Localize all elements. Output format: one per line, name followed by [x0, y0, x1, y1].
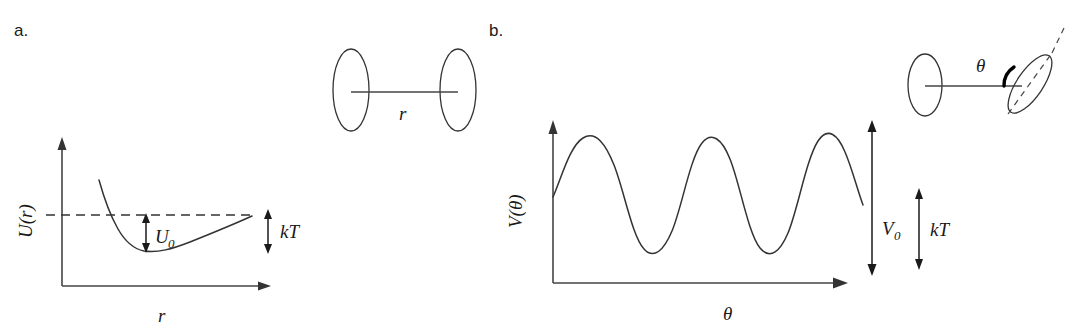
angle-arc	[1004, 67, 1014, 86]
anchor-bead-ellipse	[908, 54, 942, 116]
panel-a-diagram: r	[333, 49, 476, 131]
panel-b-letter: b.	[489, 21, 503, 40]
panel-b: b. θ	[489, 21, 1064, 324]
panel-a-x-axis-label: r	[158, 305, 166, 326]
figure-canvas: a. r	[0, 0, 1073, 335]
panel-b-potential-curve	[553, 133, 863, 253]
panel-a-x-axis-arrowhead	[258, 282, 271, 291]
panel-a-kt-arrow-up	[264, 209, 272, 219]
well-depth-dimension: U 0	[142, 213, 175, 253]
barrier-height-arrow-up	[868, 120, 877, 132]
panel-a-kt-label: kT	[280, 221, 300, 242]
barrier-height-arrow-down	[868, 264, 877, 276]
panel-a-axes	[58, 137, 272, 291]
panel-a-y-axis-arrowhead	[58, 137, 67, 150]
panel-b-x-axis-label: θ	[723, 303, 732, 324]
panel-a-letter: a.	[14, 21, 28, 40]
angle-label: θ	[976, 55, 985, 76]
panel-b-kt-arrow-down	[915, 259, 923, 270]
panel-b-x-axis-arrowhead	[833, 278, 848, 289]
panel-b-y-axis-label: V(θ)	[505, 194, 527, 228]
panel-b-kt-arrow-up	[915, 188, 923, 199]
panel-a-thermal-dimension: kT	[264, 209, 300, 254]
panel-b-axes	[549, 120, 849, 289]
orientation-reference-dashed	[1052, 28, 1064, 53]
panel-a-kt-arrow-down	[264, 244, 272, 254]
panel-b-kt-label: kT	[930, 219, 950, 240]
panel-b-y-axis-arrowhead	[549, 120, 558, 134]
right-bead-ellipse	[440, 49, 476, 131]
figure-root: a. r	[0, 0, 1073, 335]
well-depth-label-subscript: 0	[168, 236, 175, 251]
panel-b-diagram: θ	[908, 28, 1064, 119]
panel-a: a. r	[14, 21, 476, 326]
separation-label: r	[399, 103, 407, 124]
panel-a-potential-curve	[99, 180, 252, 252]
barrier-height-label-subscript: 0	[894, 228, 901, 243]
panel-a-y-axis-label: U(r)	[15, 204, 37, 238]
panel-b-thermal-dimension: kT	[915, 188, 950, 270]
left-bead-ellipse	[333, 49, 369, 131]
barrier-height-dimension: V 0	[868, 120, 902, 276]
